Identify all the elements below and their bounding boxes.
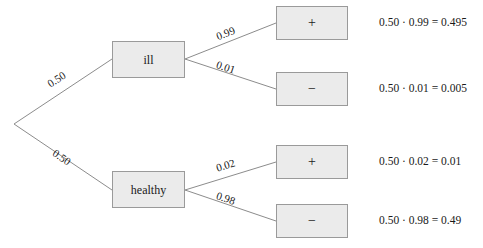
edge-root-to-ill xyxy=(14,59,112,124)
node-healthy-label: healthy xyxy=(131,184,166,196)
node-healthy-positive-label: + xyxy=(308,155,316,169)
tree-edges xyxy=(0,0,483,248)
node-ill-negative-label: − xyxy=(308,82,316,96)
result-ill-negative: 0.50 · 0.01 = 0.005 xyxy=(379,83,467,95)
node-ill-positive-label: + xyxy=(308,16,316,30)
node-ill-positive[interactable]: + xyxy=(276,6,348,40)
result-ill-positive: 0.50 · 0.99 = 0.495 xyxy=(379,17,467,29)
node-ill[interactable]: ill xyxy=(112,41,185,78)
node-ill-negative[interactable]: − xyxy=(276,72,348,106)
node-healthy-negative[interactable]: − xyxy=(276,204,348,238)
node-ill-label: ill xyxy=(143,54,153,66)
probability-tree-diagram: ill healthy + − + − 0.50 0.50 0.99 0.01 … xyxy=(0,0,483,248)
node-healthy-negative-label: − xyxy=(308,214,316,228)
result-healthy-negative: 0.50 · 0.98 = 0.49 xyxy=(379,215,461,227)
result-healthy-positive: 0.50 · 0.02 = 0.01 xyxy=(379,156,461,168)
node-healthy-positive[interactable]: + xyxy=(276,145,348,179)
node-healthy[interactable]: healthy xyxy=(112,171,185,208)
